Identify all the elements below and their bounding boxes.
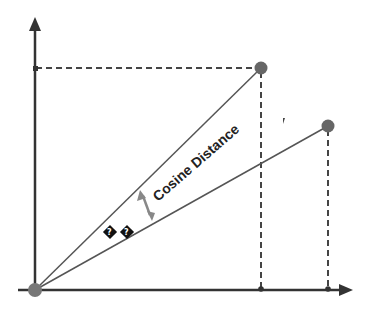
cosine-distance-diagram: Cosine Distance ? ? bbox=[0, 0, 369, 312]
x-tick-b bbox=[325, 286, 331, 292]
unknown-glyph-1-text: ? bbox=[107, 228, 112, 237]
y-axis-arrowhead bbox=[29, 17, 41, 31]
unknown-glyph-2-text: ? bbox=[124, 228, 129, 237]
vector-b-line bbox=[35, 126, 328, 290]
diagram-canvas: Cosine Distance ? ? bbox=[0, 0, 369, 312]
vector-b-point bbox=[322, 120, 335, 133]
x-axis-arrowhead bbox=[339, 284, 353, 296]
y-tick-a bbox=[33, 66, 38, 71]
x-tick-a bbox=[258, 286, 264, 292]
cosine-distance-label: Cosine Distance bbox=[149, 121, 242, 205]
stray-mark bbox=[283, 118, 285, 124]
origin-point bbox=[28, 283, 42, 297]
vector-a-point bbox=[255, 62, 268, 75]
vector-a-line bbox=[35, 68, 261, 290]
